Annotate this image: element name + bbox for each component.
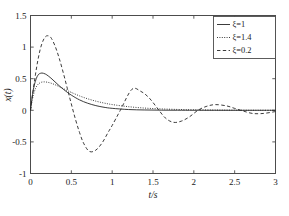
y-axis-tick-labels: 1.510.50-0.5-1 [12, 11, 27, 179]
x-tick-label: 1.5 [147, 177, 159, 187]
y-tick-label: -0.5 [12, 137, 27, 147]
x-axis-label: t/s [149, 190, 158, 200]
y-axis-label: x(t) [3, 88, 14, 102]
legend-label-0: ξ=1 [233, 20, 246, 29]
y-tick-label: 0 [22, 106, 27, 116]
legend: ξ=1ξ=1.4ξ=0.2 [214, 17, 276, 59]
y-tick-label: -1 [19, 169, 27, 179]
figure-container: 00.511.522.53 1.510.50-0.5-1 t/s x(t) ξ=… [0, 0, 289, 216]
x-tick-label: 3 [273, 177, 278, 187]
x-tick-label: 2.5 [229, 177, 241, 187]
x-tick-label: 1 [110, 177, 115, 187]
legend-label-1: ξ=1.4 [233, 33, 253, 42]
x-tick-label: 0 [28, 177, 33, 187]
line-chart: 00.511.522.53 1.510.50-0.5-1 t/s x(t) ξ=… [0, 0, 289, 216]
y-tick-label: 1 [22, 42, 27, 52]
x-axis-tick-labels: 00.511.522.53 [28, 177, 278, 187]
curve-zeta-1 [31, 73, 276, 110]
x-tick-label: 0.5 [66, 177, 78, 187]
x-tick-label: 2 [192, 177, 197, 187]
legend-label-2: ξ=0.2 [233, 46, 252, 55]
y-tick-label: 0.5 [15, 74, 27, 84]
y-tick-label: 1.5 [15, 11, 27, 21]
curve-zeta-1.4 [31, 82, 276, 110]
